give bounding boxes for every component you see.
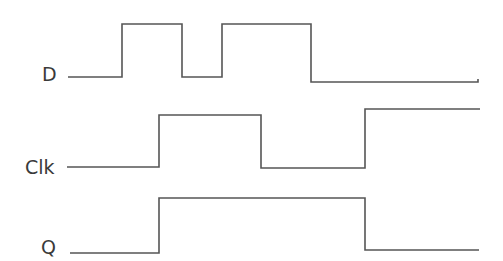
- waveform-d: [68, 24, 478, 82]
- timing-diagram: D Clk Q: [0, 0, 503, 261]
- signal-d: D: [42, 24, 478, 85]
- signal-clk: Clk: [25, 109, 480, 178]
- signal-label-q: Q: [41, 236, 56, 258]
- signal-label-clk: Clk: [25, 156, 55, 178]
- waveform-q: [70, 198, 479, 253]
- waveform-clk: [67, 109, 480, 168]
- signal-q: Q: [41, 198, 479, 258]
- signal-label-d: D: [42, 63, 57, 85]
